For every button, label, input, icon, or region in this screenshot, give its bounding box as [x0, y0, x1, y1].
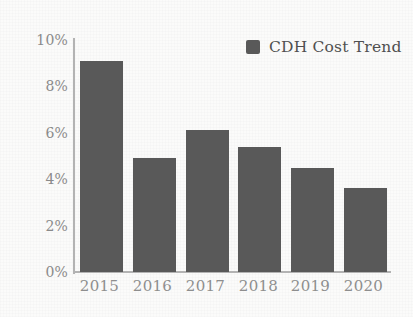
bar-chart: 10%8%6%4%2%0% 201520162017201820192020 C…: [0, 0, 413, 317]
y-axis-tick-label: 2%: [12, 219, 68, 233]
x-axis-tick-label: 2016: [126, 278, 179, 295]
y-axis-tick-label: 0%: [12, 265, 68, 279]
bar: [238, 147, 281, 272]
bar: [80, 61, 123, 272]
y-axis-tick-label: 6%: [12, 126, 68, 140]
bar: [186, 130, 229, 272]
bar: [133, 158, 176, 272]
legend-color-swatch: [246, 40, 260, 54]
y-axis-tick-label: 8%: [12, 79, 68, 93]
x-axis-tick-label: 2018: [232, 278, 285, 295]
legend-label: CDH Cost Trend: [269, 38, 402, 56]
x-axis-tick-label: 2020: [337, 278, 390, 295]
x-axis-tick-label: 2015: [73, 278, 126, 295]
bar: [291, 168, 334, 272]
x-axis: 201520162017201820192020: [73, 278, 391, 306]
x-axis-tick-label: 2017: [179, 278, 232, 295]
plot-area: [73, 40, 390, 272]
bar: [344, 188, 387, 272]
x-axis-tick-label: 2019: [284, 278, 337, 295]
y-axis-tick-label: 10%: [12, 33, 68, 47]
y-axis: 10%8%6%4%2%0%: [0, 0, 68, 317]
chart-legend: CDH Cost Trend: [246, 38, 402, 56]
y-axis-tick-label: 4%: [12, 172, 68, 186]
